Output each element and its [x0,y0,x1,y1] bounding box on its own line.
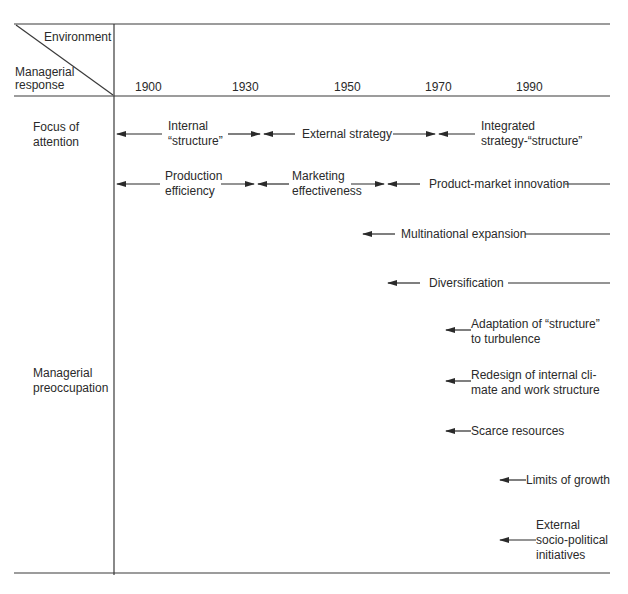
year-1990: 1990 [516,80,543,94]
integrated-strategy-structure-label: Integrated strategy-“structure” [481,119,582,149]
managerial-response-label: Managerial response [15,66,74,92]
environment-label: Environment [44,30,111,45]
diversification-label: Diversification [429,276,504,291]
managerial-preoccupation-label: Managerial preoccupation [33,366,108,396]
production-efficiency-label: Production efficiency [165,169,222,199]
year-1930: 1930 [232,80,259,94]
redesign-internal-climate-label: Redesign of internal cli- mate and work … [471,368,600,398]
marketing-effectiveness-label: Marketing effectiveness [292,169,362,199]
scarce-resources-label: Scarce resources [471,424,564,439]
year-1900: 1900 [135,80,162,94]
product-market-innovation-label: Product-market innovation [429,177,569,192]
limits-of-growth-label: Limits of growth [526,473,610,488]
year-1970: 1970 [425,80,452,94]
focus-of-attention-label: Focus of attention [33,120,79,150]
external-strategy-label: External strategy [302,127,392,142]
year-1950: 1950 [334,80,361,94]
internal-structure-label: Internal “structure” [168,119,223,149]
multinational-expansion-label: Multinational expansion [401,227,526,242]
adaptation-of-structure-label: Adaptation of “structure” to turbulence [471,317,600,347]
external-socio-political-label: External socio-political initiatives [536,518,608,563]
